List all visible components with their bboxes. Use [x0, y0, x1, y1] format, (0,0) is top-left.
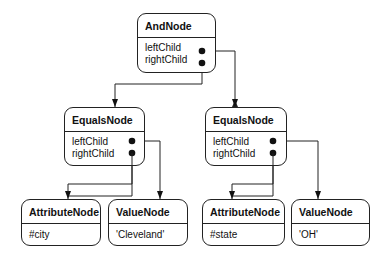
equals-node-left: EqualsNode leftChild rightChild	[64, 107, 145, 166]
arrowhead-icon	[232, 100, 238, 107]
equals-node-title: EqualsNode	[65, 108, 144, 132]
value-node-cleveland: ValueNode 'Cleveland'	[108, 199, 188, 246]
field-right-child: rightChild	[145, 54, 209, 66]
attribute-node-city: AttributeNode #city	[21, 199, 101, 246]
field-right-child: rightChild	[72, 148, 138, 160]
equals-node-title: EqualsNode	[206, 108, 286, 132]
equals-node-right: EqualsNode leftChild rightChild	[205, 107, 287, 166]
field-left-child: leftChild	[72, 136, 138, 148]
and-node-title: AndNode	[138, 14, 215, 38]
field-attribute: #state	[210, 229, 278, 241]
field-right-child: rightChild	[213, 148, 280, 160]
field-value: 'OH'	[299, 229, 363, 241]
and-node: AndNode leftChild rightChild	[137, 13, 216, 73]
field-value: 'Cleveland'	[116, 229, 181, 241]
value-node-oh: ValueNode 'OH'	[291, 199, 370, 246]
field-left-child: leftChild	[145, 42, 209, 54]
value-node-title: ValueNode	[109, 200, 187, 224]
field-attribute: #city	[29, 229, 94, 241]
attribute-node-title: AttributeNode	[203, 200, 284, 224]
attribute-node-title: AttributeNode	[22, 200, 100, 224]
value-node-title: ValueNode	[292, 200, 369, 224]
attribute-node-state: AttributeNode #state	[202, 199, 285, 246]
field-left-child: leftChild	[213, 136, 280, 148]
